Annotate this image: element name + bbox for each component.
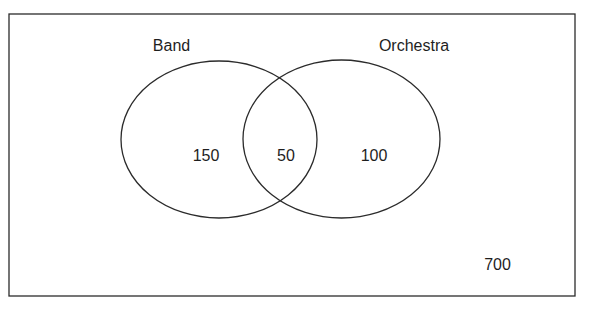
orchestra-set-label: Orchestra (379, 37, 449, 54)
orchestra-set-ellipse (243, 60, 440, 218)
band-set-label: Band (153, 37, 190, 54)
outside-count: 700 (484, 256, 511, 273)
orchestra-only-count: 100 (361, 147, 388, 164)
intersection-count: 50 (277, 147, 295, 164)
band-only-count: 150 (193, 147, 220, 164)
band-set-ellipse (121, 61, 317, 218)
venn-diagram: Band Orchestra 150 50 100 700 (0, 0, 589, 310)
